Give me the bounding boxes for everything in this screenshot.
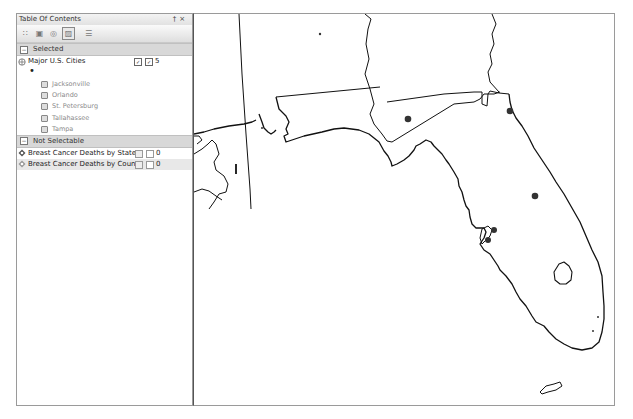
selectable-toggle-checkbox[interactable] [135, 150, 143, 158]
layer-major-us-cities[interactable]: Major U.S. Cities ✓ ✓ 5 [17, 56, 192, 67]
florida-map [194, 14, 615, 406]
feature-item[interactable]: St. Petersburg [17, 101, 192, 112]
city-point-st-petersburg [485, 237, 491, 243]
clear-selection-checkbox[interactable] [146, 150, 154, 158]
group-label: Selected [33, 44, 63, 55]
state-border [488, 14, 499, 92]
city-point-orlando [532, 193, 539, 200]
group-label: Not Selectable [33, 136, 84, 147]
group-selected[interactable]: − Selected [17, 43, 192, 56]
layer-name: Breast Cancer Deaths by County [28, 159, 142, 170]
clear-selection-checkbox[interactable] [146, 161, 154, 169]
table-of-contents-panel: Table Of Contents †× ∷ ▣ ◎ ▨ ☰ − Selecte… [16, 13, 193, 406]
feature-icon [41, 103, 48, 110]
state-border [387, 91, 509, 106]
minor-point [319, 33, 321, 35]
minor-point [261, 127, 263, 129]
state-border [365, 14, 387, 141]
state-border [239, 14, 251, 209]
city-point-jacksonville [507, 108, 514, 115]
selectable-layer-icon [18, 58, 26, 66]
coastline [194, 136, 202, 144]
feature-icon [41, 81, 48, 88]
florida-keys [540, 382, 562, 394]
city-point-tallahassee [405, 116, 412, 123]
feature-item[interactable]: Tallahassee [17, 113, 192, 124]
feature-item[interactable]: Orlando [17, 90, 192, 101]
coastline [194, 140, 228, 209]
florida-coastline [276, 94, 604, 350]
feature-icon [41, 126, 48, 133]
feature-item[interactable]: Tampa [17, 124, 192, 135]
coastline [194, 189, 222, 200]
feature-name: Jacksonville [52, 79, 90, 90]
options-icon[interactable]: ☰ [83, 28, 94, 39]
feature-name: Tallahassee [52, 113, 89, 124]
minor-point [597, 316, 599, 318]
feature-name: Orlando [52, 90, 78, 101]
layer-name: Major U.S. Cities [28, 56, 85, 67]
collapse-icon[interactable]: − [20, 137, 28, 145]
minor-point [592, 330, 594, 332]
map-view[interactable] [193, 13, 615, 406]
list-by-visibility-icon[interactable]: ◎ [48, 28, 59, 39]
toc-title: Table Of Contents [19, 15, 81, 23]
toc-title-bar: Table Of Contents †× [17, 14, 192, 25]
clear-selection-checkbox[interactable]: ✓ [145, 58, 153, 66]
group-not-selectable[interactable]: − Not Selectable [17, 135, 192, 148]
state-border [276, 87, 380, 97]
list-by-source-icon[interactable]: ▣ [34, 28, 45, 39]
coastline [259, 114, 276, 134]
list-by-drawing-order-icon[interactable]: ∷ [20, 28, 31, 39]
toc-toolbar: ∷ ▣ ◎ ▨ ☰ [17, 25, 192, 43]
layer-name: Breast Cancer Deaths by State [28, 148, 136, 159]
selectable-toggle-checkbox[interactable]: ✓ [134, 58, 142, 66]
feature-item[interactable]: Jacksonville [17, 79, 192, 90]
selected-count: 0 [156, 159, 160, 170]
not-selectable-layer-icon [18, 149, 26, 157]
list-by-selection-icon[interactable]: ▨ [62, 27, 75, 40]
selectable-toggle-checkbox[interactable] [135, 161, 143, 169]
city-point-tampa [491, 227, 497, 233]
feature-name: St. Petersburg [52, 101, 98, 112]
lake-okeechobee [554, 262, 572, 284]
not-selectable-layer-icon [18, 160, 26, 168]
collapse-icon[interactable]: − [20, 46, 28, 54]
selected-count: 5 [155, 56, 159, 67]
feature-icon [41, 115, 48, 122]
coastline [194, 120, 256, 134]
close-icon[interactable]: × [179, 15, 188, 23]
point-symbol: • [17, 67, 192, 79]
layer-breast-cancer-by-state[interactable]: Breast Cancer Deaths by State 0 [17, 148, 192, 159]
layer-breast-cancer-by-county[interactable]: Breast Cancer Deaths by County 0 [17, 159, 192, 170]
feature-name: Tampa [52, 124, 73, 135]
selected-count: 0 [156, 148, 160, 159]
feature-icon [41, 92, 48, 99]
